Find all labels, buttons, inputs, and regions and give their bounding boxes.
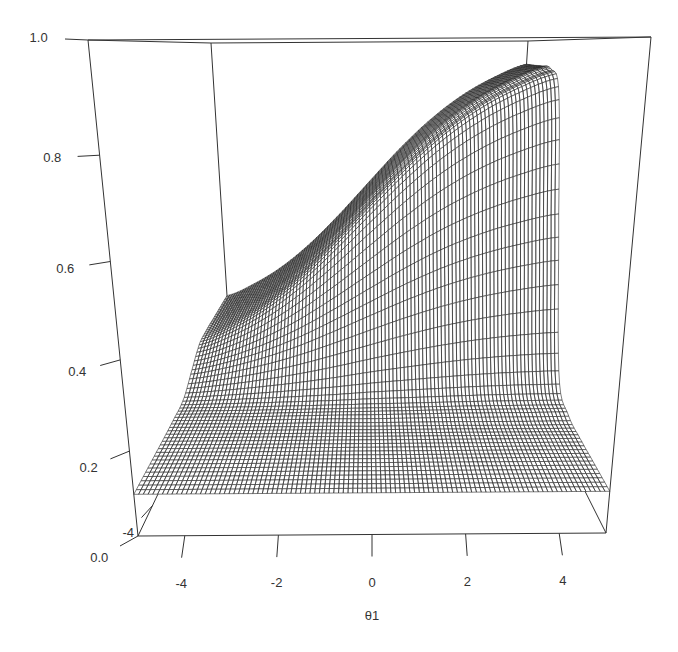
theta1-tick-mark <box>182 536 185 558</box>
theta1-tick-label: -2 <box>271 575 283 590</box>
z-tick-label: 0.6 <box>56 261 74 276</box>
theta1-tick-mark <box>277 535 279 557</box>
theta2-tick-mark <box>142 506 153 518</box>
z-tick-mark <box>89 262 110 265</box>
z-tick-label: 0.8 <box>43 150 61 165</box>
theta1-tick-label: 0 <box>368 575 375 590</box>
surface-plot: -4 0.0 0.2 0.4 0.6 0.8 1.0 -4 -2 0 2 4 θ… <box>0 0 678 652</box>
z-tick-mark <box>78 155 100 156</box>
z-tick-label: 0.0 <box>90 550 108 565</box>
z-tick-label: 0.2 <box>80 460 98 475</box>
box-edge <box>211 41 528 43</box>
plot-canvas: -4 0.0 0.2 0.4 0.6 0.8 1.0 -4 -2 0 2 4 θ… <box>0 0 678 652</box>
z-tick-mark <box>110 451 129 459</box>
theta1-axis: -4 -2 0 2 4 θ1 <box>175 533 566 622</box>
surface-mesh <box>134 64 610 494</box>
box-edge <box>88 40 211 43</box>
theta1-tick-mark <box>466 534 468 556</box>
theta1-tick-label: -4 <box>175 576 187 591</box>
theta1-axis-title: θ1 <box>365 608 379 623</box>
theta1-tick-mark <box>559 533 562 555</box>
z-tick-label: 1.0 <box>30 30 48 45</box>
z-tick-label: 0.4 <box>68 364 86 379</box>
theta1-tick-label: 2 <box>464 574 471 589</box>
box-edge <box>606 37 651 533</box>
z-tick-mark <box>100 360 120 366</box>
z-axis: 0.0 0.2 0.4 0.6 0.8 1.0 <box>30 30 138 565</box>
z-tick-mark <box>65 39 88 40</box>
theta1-tick-label: 4 <box>559 573 566 588</box>
theta2-tick-label: -4 <box>123 525 135 540</box>
